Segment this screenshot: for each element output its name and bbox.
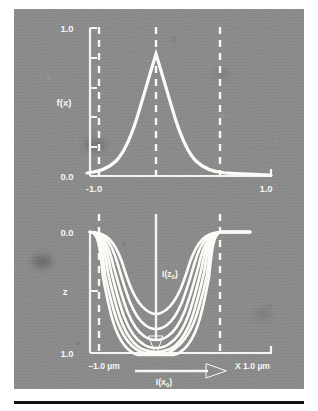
vertical-vector-label-base: I(z — [162, 269, 172, 279]
horizontal-vector-label-base: I(x — [156, 377, 166, 387]
plot-vector-layer: 1.0 0.0 f(x) -1.0 1.0 0.0 1.0 z −1.0 µm … — [14, 9, 304, 389]
upper-x-left-label: -1.0 — [86, 183, 102, 194]
lower-x-right-label: X 1.0 µm — [235, 361, 270, 371]
lower-x-left-label: −1.0 µm — [88, 361, 120, 371]
upper-y-top-label: 1.0 — [60, 23, 73, 34]
vertical-vector-label: I(z0) — [162, 269, 178, 280]
horizontal-vector-label-close: ) — [169, 377, 172, 387]
depth-contour-family — [90, 232, 250, 355]
vertical-vector-label-close: ) — [175, 269, 178, 279]
bottom-horizontal-rule — [14, 401, 304, 404]
figure-root: 1.0 0.0 f(x) -1.0 1.0 0.0 1.0 z −1.0 µm … — [0, 0, 318, 411]
gaussian-curve-fx — [87, 54, 271, 175]
lower-y-axis-label: z — [63, 286, 68, 297]
scanned-photo-plate: 1.0 0.0 f(x) -1.0 1.0 0.0 1.0 z −1.0 µm … — [14, 9, 304, 389]
lower-y-top-label: 0.0 — [60, 227, 73, 238]
upper-y-axis-label: f(x) — [57, 97, 72, 108]
horizontal-vector-arrowhead — [206, 364, 226, 378]
horizontal-vector-label: I(x0) — [156, 377, 172, 388]
upper-x-right-label: 1.0 — [259, 183, 272, 194]
lower-y-bottom-label: 1.0 — [60, 348, 73, 359]
upper-y-bottom-label: 0.0 — [60, 171, 73, 182]
depth-contour-4 — [90, 232, 250, 348]
